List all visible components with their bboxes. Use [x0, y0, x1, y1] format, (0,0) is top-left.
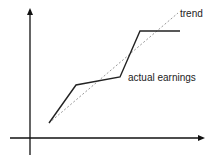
trend-line: [49, 13, 178, 123]
x-axis-arrow-icon: [198, 135, 205, 141]
trend-label: trend: [180, 9, 203, 19]
y-axis-arrow-icon: [27, 8, 33, 15]
actual-earnings-label: actual earnings: [128, 73, 196, 83]
